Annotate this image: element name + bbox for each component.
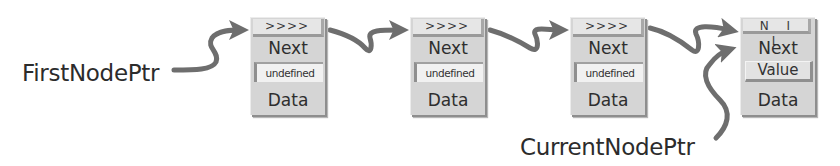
node-next-label: Next (571, 38, 645, 58)
current-node-ptr-label: CurrentNodePtr (520, 136, 695, 159)
node-next-label: Next (741, 38, 815, 58)
linked-list-diagram: FirstNodePtr CurrentNodePtr >>>> Next un… (0, 0, 840, 166)
node-next-label: Next (251, 38, 325, 58)
node-header-nil: N I L (743, 19, 811, 34)
node-data-label: Data (741, 89, 815, 111)
node-header-pointer: >>>> (413, 19, 484, 37)
node-value-field: undefined (254, 62, 323, 82)
node-value-field: undefined (414, 62, 483, 82)
node-data-label: Data (411, 89, 485, 111)
list-node-3-tail: N I L Next Value Data (740, 17, 815, 115)
arrow-node-1-to-node-2 (490, 29, 560, 49)
list-node-2: >>>> Next undefined Data (570, 17, 645, 115)
list-node-0: >>>> Next undefined Data (250, 17, 325, 115)
list-node-1: >>>> Next undefined Data (410, 17, 485, 115)
node-value-field: undefined (574, 62, 643, 82)
node-header-pointer: >>>> (573, 19, 644, 37)
node-header-pointer: >>>> (253, 19, 324, 37)
node-next-label: Next (411, 38, 485, 58)
node-data-label: Data (251, 89, 325, 111)
arrow-node-2-to-node-3 (650, 27, 730, 52)
arrow-first-to-node-0 (174, 30, 240, 70)
node-data-label: Data (571, 89, 645, 111)
arrow-node-0-to-node-1 (330, 30, 400, 51)
first-node-ptr-label: FirstNodePtr (22, 62, 159, 85)
node-value-field: Value (745, 61, 813, 82)
arrow-current-to-node-3 (705, 50, 728, 138)
